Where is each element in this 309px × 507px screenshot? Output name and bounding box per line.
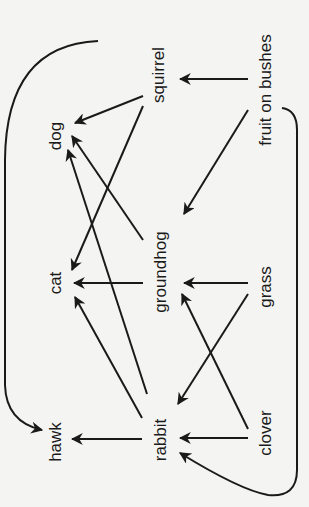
edge-squirrel-to-dog — [75, 96, 143, 123]
node-fruit-on-bushes: fruit on bushes — [257, 34, 274, 146]
node-dog: dog — [47, 122, 64, 150]
edge-squirrel-to-hawk — [5, 41, 98, 430]
edge-grass-to-rabbit — [178, 294, 248, 404]
node-cat: cat — [47, 272, 64, 295]
node-squirrel: squirrel — [150, 47, 167, 103]
node-clover: clover — [257, 410, 274, 455]
node-groundhog: groundhog — [152, 231, 169, 312]
node-hawk: hawk — [47, 422, 64, 462]
node-rabbit: rabbit — [152, 419, 169, 462]
edge-rabbit-to-cat — [75, 297, 142, 418]
edge-fruit-to-groundhog — [184, 110, 248, 214]
edge-clover-to-groundhog — [182, 294, 248, 429]
node-grass: grass — [257, 266, 274, 308]
edge-groundhog-to-dog — [72, 136, 143, 240]
